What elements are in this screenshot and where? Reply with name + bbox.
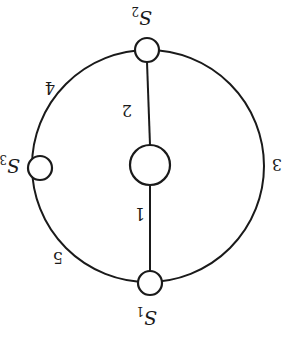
svg-text:S1: S1 <box>136 304 157 329</box>
label-s1: S1 <box>136 304 157 329</box>
label-s3-main: S <box>7 155 20 177</box>
label-s1-main: S <box>144 307 157 329</box>
edge-label-3: 3 <box>272 155 282 174</box>
label-s2: S2 <box>131 4 152 29</box>
svg-text:S3: S3 <box>0 152 20 177</box>
node-s1 <box>138 271 162 295</box>
graph-diagram: S2 S1 S3 4 2 3 1 5 <box>0 0 290 338</box>
label-s3-sub: 3 <box>0 152 7 166</box>
node-s2 <box>135 38 159 62</box>
svg-text:S2: S2 <box>131 4 152 29</box>
label-s1-sub: 1 <box>136 304 144 318</box>
edge-2-chord <box>147 62 150 145</box>
label-s2-main: S <box>139 7 152 29</box>
node-s3 <box>28 156 52 180</box>
edge-label-4: 4 <box>45 78 55 97</box>
label-s2-sub: 2 <box>131 4 139 18</box>
node-center <box>130 145 170 185</box>
edge-label-1: 1 <box>135 204 145 223</box>
edge-label-5: 5 <box>53 248 63 267</box>
label-s3: S3 <box>0 152 20 177</box>
edge-label-2: 2 <box>122 101 132 120</box>
